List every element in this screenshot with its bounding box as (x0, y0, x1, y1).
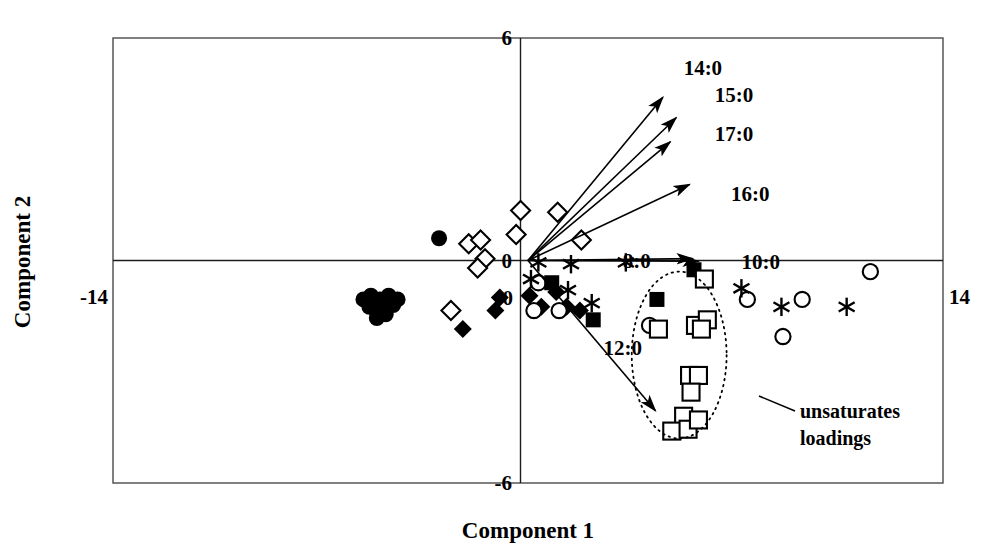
data-point-open-square (650, 321, 667, 338)
loading-label-14-0: 14:0 (684, 56, 723, 80)
loading-vector-16-0 (528, 184, 690, 260)
loading-label-17-0: 17:0 (715, 122, 754, 146)
data-point-open-circle (526, 303, 541, 318)
loading-vector-15-0 (528, 118, 676, 261)
unsaturates-label-line1: unsaturates (800, 400, 900, 422)
loading-vector-10-0 (528, 261, 698, 262)
y-zero-tick-label: 0 (502, 249, 513, 273)
data-point-open-square (690, 411, 707, 428)
y-min-tick-label: -6 (495, 471, 513, 495)
data-point-filled-square (649, 292, 664, 307)
data-point-filled-square (586, 312, 601, 327)
loading-vector-17-0 (528, 142, 670, 261)
x-min-tick-label: -14 (80, 285, 108, 309)
y-axis-title: Component 2 (10, 196, 35, 328)
data-point-filled-circle (390, 291, 406, 307)
data-point-open-diamond (507, 225, 526, 244)
y-max-tick-label: 6 (502, 26, 513, 50)
data-point-asterisk (839, 298, 855, 316)
data-point-open-square (693, 321, 710, 338)
loading-label-15-0: 15:0 (715, 83, 754, 107)
unsaturates-label-line2: loadings (800, 427, 871, 450)
chart-root: 6 -6 -14 14 0 0 Component 1 Component 2 … (0, 0, 997, 560)
data-point-filled-circle (355, 291, 371, 307)
data-point-open-square (663, 423, 680, 440)
data-point-open-circle (552, 303, 567, 318)
data-point-open-diamond (511, 201, 530, 220)
data-point-open-circle (863, 264, 878, 279)
loading-vectors-layer: 14:015:017:016:08:010:012:0 (528, 56, 780, 411)
loading-label-16-0: 16:0 (731, 182, 770, 206)
data-point-open-circle (775, 329, 790, 344)
x-max-tick-label: 14 (949, 285, 971, 309)
data-point-open-diamond (548, 203, 567, 222)
data-point-asterisk (773, 298, 789, 316)
data-point-open-diamond (572, 231, 591, 250)
loading-label-12-0: 12:0 (604, 336, 643, 360)
pca-biplot-svg: 6 -6 -14 14 0 0 Component 1 Component 2 … (0, 0, 997, 560)
data-point-asterisk (563, 255, 579, 273)
data-point-open-square (683, 384, 700, 401)
data-point-open-circle (795, 292, 810, 307)
loading-vector-14-0 (528, 97, 663, 260)
data-point-filled-diamond (454, 320, 472, 338)
data-point-filled-circle (378, 306, 394, 322)
x-axis-title: Component 1 (462, 518, 594, 543)
data-point-filled-circle (431, 230, 447, 246)
loading-label-10-0: 10:0 (741, 250, 780, 274)
data-point-open-square (690, 367, 707, 384)
data-point-open-diamond (441, 301, 460, 320)
unsaturates-leader-line (759, 396, 795, 411)
